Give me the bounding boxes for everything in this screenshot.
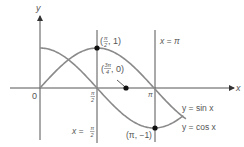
cosine-curve-label: y = cos x — [182, 122, 217, 132]
trig-diagram: y x 0 π 2 π x = π x = π 2 ( π 2 , 1) ( 3… — [0, 0, 244, 147]
point-pi-over-2-one — [94, 45, 99, 50]
pointer-arrow — [117, 80, 124, 86]
sine-curve — [40, 48, 186, 119]
point-label-pi-over-2-rest: , 1) — [108, 36, 121, 46]
point-pi-minus-one — [152, 125, 157, 130]
y-axis-label: y — [35, 3, 41, 13]
tick-pi-over-2-numerator: π — [91, 90, 95, 96]
label-x-equals-pi-over-2-prefix: x = — [71, 126, 84, 136]
point-three-pi-over-4-zero — [123, 85, 128, 90]
point-label-3pi-over-4-rest: , 0) — [111, 64, 124, 74]
x-axis-label: x — [235, 83, 241, 93]
origin-label: 0 — [32, 91, 37, 101]
tick-pi: π — [148, 91, 153, 98]
point-label-pi-over-2-open: ( — [100, 36, 103, 46]
label-x-equals-pi: x = π — [159, 36, 180, 46]
point-label-3pi-over-4-den: 4 — [106, 69, 109, 75]
label-x-equals-pi-over-2-den: 2 — [90, 132, 94, 138]
label-x-equals-pi-over-2-num: π — [91, 125, 95, 131]
sine-curve-label: y = sin x — [182, 103, 214, 113]
tick-pi-over-2-denominator: 2 — [90, 97, 94, 103]
point-label-pi-over-2-den: 2 — [103, 42, 107, 48]
point-label-pi-minus-one: (π, −1) — [126, 130, 152, 140]
